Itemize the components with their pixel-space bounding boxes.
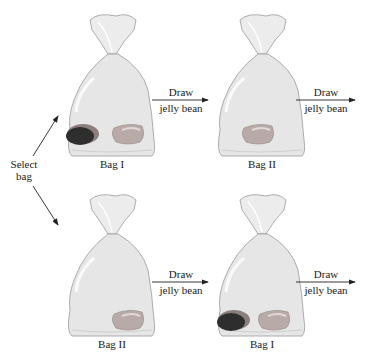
bag-label-row-1-first: Bag I: [72, 158, 152, 170]
draw-label-row-1-b: Draw: [291, 86, 361, 98]
bag-row-1-first: [66, 15, 155, 156]
draw-label-row-1-a: Draw: [146, 86, 216, 98]
jelly-bean-red: [258, 310, 289, 330]
jelly-bean-red: [112, 310, 143, 330]
jelly-bean-red: [242, 124, 273, 144]
diagram-canvas: [0, 0, 367, 352]
draw-label-row-1-b-sub: jelly bean: [291, 102, 361, 114]
bag-label-row-1-second: Bag II: [222, 158, 302, 170]
bag-label-row-2-second: Bag I: [222, 338, 302, 350]
draw-label-row-2-a: Draw: [146, 268, 216, 280]
bag-row-2-first: [68, 195, 154, 336]
draw-label-row-1-a-sub: jelly bean: [146, 102, 216, 114]
draw-label-row-2-b: Draw: [291, 268, 361, 280]
arrow-to-row-2: [33, 186, 58, 225]
arrow-to-row-1: [33, 116, 58, 156]
draw-label-row-2-a-sub: jelly bean: [146, 284, 216, 296]
bag-label-row-2-first: Bag II: [72, 338, 152, 350]
draw-label-row-2-b-sub: jelly bean: [291, 284, 361, 296]
jelly-bean-red: [112, 124, 143, 144]
bag-row-2-second: [217, 195, 305, 336]
select-bag-label: Select bag: [4, 158, 44, 182]
